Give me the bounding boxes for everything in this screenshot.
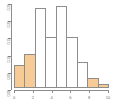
x-axis-tick-label: 0 (7, 95, 21, 100)
histogram-bars (14, 6, 108, 88)
x-axis-tick (33, 90, 34, 93)
x-axis-tick-label: 6 (63, 95, 77, 100)
x-axis-tick (14, 90, 15, 93)
x-axis-tick-label: 4 (45, 95, 59, 100)
x-axis-tick (52, 90, 53, 93)
x-axis-tick-label: 10 (101, 95, 115, 100)
plot-area (14, 6, 108, 88)
x-axis-tick-label: 2 (26, 95, 40, 100)
histogram-bar (98, 84, 109, 88)
y-axis-line (11, 4, 12, 90)
x-axis-tick-label: 8 (82, 95, 96, 100)
histogram-figure: 0.000.050.100.150.200.25 0246810 (0, 0, 122, 111)
y-axis-tick-label: 0.25 (7, 4, 11, 44)
x-axis-tick (70, 90, 71, 93)
x-axis-tick (108, 90, 109, 93)
x-axis-line (14, 90, 109, 91)
x-axis-tick (89, 90, 90, 93)
